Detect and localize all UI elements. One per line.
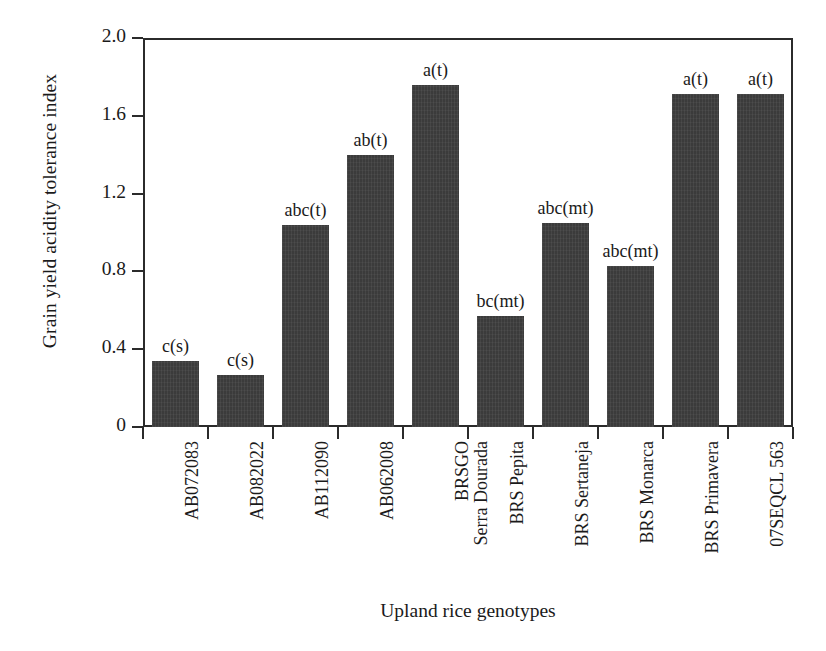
bar-value-annotation: abc(mt) [538, 198, 594, 219]
x-axis-category-label: BRSGOSerra Dourada [453, 441, 493, 591]
bar[interactable] [542, 223, 589, 427]
bar[interactable] [217, 375, 264, 428]
bar[interactable] [672, 94, 719, 427]
bar[interactable] [412, 85, 459, 427]
x-tick-mark [142, 427, 144, 439]
x-axis-category-label-line: BRS Monarca [638, 441, 657, 591]
bar-value-annotation: abc(mt) [603, 241, 659, 262]
x-tick-mark [337, 427, 339, 439]
bar[interactable] [737, 94, 784, 427]
x-axis-category-label-line: BRSGO [453, 441, 472, 591]
bar-group: a(t) [728, 38, 793, 427]
x-axis-category-label-line: AB112090 [313, 441, 332, 591]
chart-figure: Grain yield acidity tolerance index 00.4… [0, 0, 826, 651]
y-tick-label: 0 [116, 414, 126, 436]
bar[interactable] [152, 361, 199, 427]
bar-value-annotation: abc(t) [285, 200, 327, 221]
bar-value-annotation: bc(mt) [477, 291, 525, 312]
bar-value-annotation: a(t) [423, 60, 448, 81]
bar-series: c(s)c(s)abc(t)ab(t)a(t)bc(mt)abc(mt)abc(… [143, 38, 793, 427]
y-tick-label: 2.0 [102, 25, 126, 47]
bar-group: c(s) [208, 38, 273, 427]
bar-value-annotation: c(s) [227, 350, 254, 371]
x-tick-mark [727, 427, 729, 439]
x-axis-category-label-line: AB062008 [378, 441, 397, 591]
bar-group: abc(mt) [533, 38, 598, 427]
bar-group: abc(mt) [598, 38, 663, 427]
bar[interactable] [282, 225, 329, 427]
x-tick-mark [597, 427, 599, 439]
bar[interactable] [477, 316, 524, 427]
x-axis-category-label-line: BRS Sertaneja [573, 441, 592, 591]
x-axis-ticks [143, 427, 793, 441]
y-tick-mark [132, 193, 143, 195]
bar-value-annotation: a(t) [683, 69, 708, 90]
x-axis-category-label-line: AB082022 [248, 441, 267, 591]
y-tick-label: 0.4 [102, 336, 126, 358]
x-axis-category-label: BRS Primavera [703, 441, 723, 591]
x-axis-category-label: BRS Monarca [638, 441, 658, 591]
y-axis-title: Grain yield acidity tolerance index [39, 11, 61, 411]
x-axis-category-label-line: AB072083 [183, 441, 202, 591]
bar[interactable] [347, 155, 394, 427]
x-axis-labels: AB072083AB082022AB112090AB062008BRSGOSer… [143, 441, 793, 591]
bar-group: bc(mt) [468, 38, 533, 427]
x-tick-mark [272, 427, 274, 439]
x-tick-mark [662, 427, 664, 439]
bar-group: a(t) [663, 38, 728, 427]
x-axis-category-label-line: BRS Pepita [508, 441, 527, 591]
x-axis-category-label-line: 07SEQCL 563 [768, 441, 787, 591]
x-axis-category-label-line: Serra Dourada [471, 441, 490, 591]
x-axis-category-label: AB082022 [248, 441, 268, 591]
y-tick-mark [132, 115, 143, 117]
x-tick-mark [467, 427, 469, 439]
x-tick-mark [207, 427, 209, 439]
bar-value-annotation: a(t) [748, 69, 773, 90]
bar[interactable] [607, 266, 654, 427]
bar-value-annotation: ab(t) [354, 130, 388, 151]
bar-group: c(s) [143, 38, 208, 427]
x-axis-category-label: AB062008 [378, 441, 398, 591]
x-tick-mark [532, 427, 534, 439]
x-tick-mark [402, 427, 404, 439]
x-axis-category-label: AB112090 [313, 441, 333, 591]
bar-value-annotation: c(s) [162, 336, 189, 357]
y-tick-mark [132, 270, 143, 272]
x-tick-mark [792, 427, 794, 439]
y-tick-mark [132, 37, 143, 39]
x-axis-category-label: BRS Pepita [508, 441, 528, 591]
bar-group: a(t) [403, 38, 468, 427]
bar-group: ab(t) [338, 38, 403, 427]
bar-group: abc(t) [273, 38, 338, 427]
y-tick-label: 1.6 [102, 103, 126, 125]
y-tick-mark [132, 348, 143, 350]
y-tick-label: 0.8 [102, 258, 126, 280]
x-axis-category-label: AB072083 [183, 441, 203, 591]
x-axis-title: Upland rice genotypes [143, 600, 793, 622]
x-axis-category-label: BRS Sertaneja [573, 441, 593, 591]
x-axis-category-label-line: BRS Primavera [703, 441, 722, 591]
y-tick-label: 1.2 [102, 181, 126, 203]
x-axis-category-label: 07SEQCL 563 [768, 441, 788, 591]
